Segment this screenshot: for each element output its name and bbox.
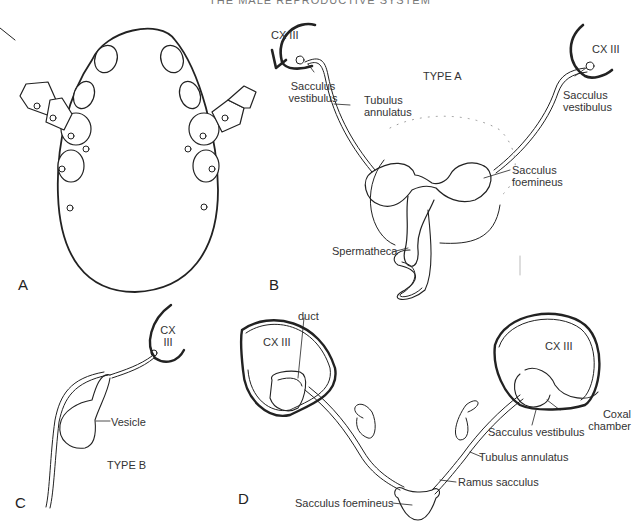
label-b-sacculus-foemineus: Sacculus foemineus — [512, 164, 563, 188]
figure-drawings — [0, 0, 637, 526]
panel-b-drawing — [272, 24, 612, 299]
label-d-ramus-sacculus: Ramus sacculus — [458, 476, 539, 488]
panel-letter-c: C — [15, 494, 26, 511]
label-b-cx-left: CX III — [271, 29, 299, 41]
label-b-spermatheca: Spermatheca — [332, 245, 397, 257]
panel-letter-a: A — [18, 276, 28, 293]
label-d-sacculus-vestibulus: Sacculus vestibulus — [488, 426, 585, 438]
label-c-type: TYPE B — [107, 459, 146, 471]
label-b-sv-right: Sacculus vestibulus — [563, 89, 612, 113]
panel-letter-b: B — [269, 276, 279, 293]
label-b-tubulus: Tubulus annulatus — [364, 94, 412, 118]
label-d-cx-left: CX III — [263, 336, 291, 348]
label-b-type: TYPE A — [423, 70, 462, 82]
label-c-vesicle: Vesicle — [111, 416, 146, 428]
panel-a-drawing — [0, 28, 256, 292]
label-d-sacculus-foemineus: Sacculus foemineus — [295, 497, 393, 509]
label-d-duct: duct — [298, 310, 319, 322]
label-d-cx-right: CX III — [545, 340, 573, 352]
label-b-sv-left: Sacculus vestibulus — [283, 80, 343, 104]
label-b-cx-right: CX III — [592, 43, 620, 55]
panel-letter-d: D — [238, 490, 249, 507]
label-d-tubulus-annulatus: Tubulus annulatus — [479, 451, 569, 463]
label-c-cx: CX III — [158, 324, 178, 348]
